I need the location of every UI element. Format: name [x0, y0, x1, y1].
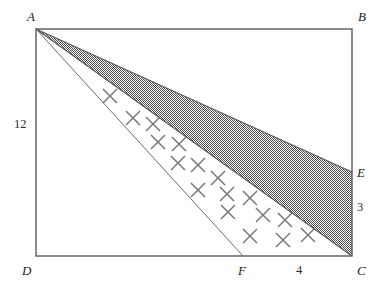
- cross-mark: [243, 191, 257, 205]
- cross-mark: [243, 229, 257, 243]
- measure-FC: 4: [296, 264, 302, 277]
- label-E: E: [357, 166, 365, 179]
- cross-mark: [256, 208, 270, 222]
- segment-ac: [36, 29, 352, 256]
- label-F: F: [238, 264, 246, 277]
- cross-mark: [278, 213, 292, 227]
- measure-AD: 12: [14, 118, 27, 131]
- cross-mark: [211, 171, 225, 185]
- segment-ae: [36, 29, 352, 172]
- cross-mark: [126, 111, 140, 125]
- label-B: B: [358, 10, 366, 23]
- geometry-figure: ABCDEF 1234: [0, 0, 383, 286]
- figure-canvas: [0, 0, 383, 286]
- cross-mark: [220, 187, 234, 201]
- label-C: C: [357, 264, 366, 277]
- cross-mark: [301, 228, 315, 242]
- cross-mark: [103, 89, 117, 103]
- cross-mark: [151, 135, 165, 149]
- label-D: D: [22, 264, 31, 277]
- label-A: A: [27, 10, 35, 23]
- cross-mark: [172, 137, 186, 151]
- cross-mark: [191, 183, 205, 197]
- cross-mark: [276, 233, 290, 247]
- cross-mark: [191, 158, 205, 172]
- cross-mark: [171, 156, 185, 170]
- cross-mark: [221, 205, 235, 219]
- cross-mark: [146, 117, 160, 131]
- measure-EC: 3: [357, 201, 363, 214]
